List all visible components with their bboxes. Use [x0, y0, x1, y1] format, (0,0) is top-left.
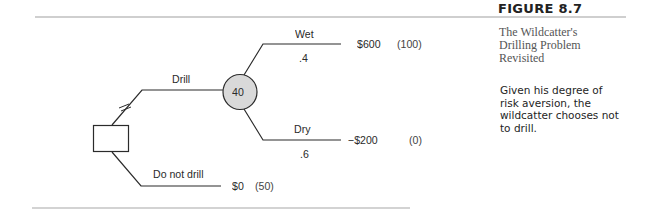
wet-utility: (100) — [397, 39, 422, 51]
dry-label: Dry — [294, 124, 310, 136]
dry-payoff: −$200 — [348, 135, 378, 147]
note-line: Given his degree of — [500, 84, 645, 97]
figure-note: Given his degree of risk aversion, the w… — [500, 84, 645, 134]
figure-number: FIGURE 8.7 — [498, 1, 582, 16]
dry-utility: (0) — [409, 135, 422, 147]
wet-payoff: $600 — [357, 39, 381, 51]
drill-label: Drill — [172, 74, 190, 86]
decision-node — [94, 126, 129, 152]
figure-caption: The Wildcatter's Drilling Problem Revisi… — [499, 26, 639, 65]
dry-probability: .6 — [300, 149, 309, 161]
figure-8-7: 40 Drill Do not drill Wet .4 Dry .6 $600… — [0, 0, 648, 210]
caption-line: Revisited — [499, 52, 639, 65]
note-line: wildcatter chooses not — [500, 109, 645, 122]
wet-branch-line — [244, 44, 341, 75]
note-line: risk aversion, the — [500, 97, 645, 110]
dry-branch-line — [244, 109, 341, 140]
do-not-drill-label: Do not drill — [153, 169, 204, 181]
do-not-drill-utility: (50) — [255, 181, 274, 193]
do-not-drill-payoff: $0 — [232, 181, 244, 193]
chance-node-value: 40 — [232, 87, 244, 99]
wet-label: Wet — [295, 29, 314, 41]
note-line: to drill. — [500, 122, 645, 135]
wet-probability: .4 — [299, 53, 308, 65]
